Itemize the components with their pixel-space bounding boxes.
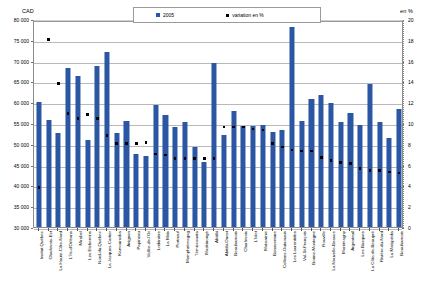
bar-slot: [161, 21, 171, 227]
bar: [338, 122, 343, 227]
left-axis-unit-label: CAD: [22, 8, 34, 14]
bar: [75, 76, 80, 227]
y2-axis-tick-label: 4: [408, 183, 411, 189]
bar-slot: [238, 21, 248, 227]
legend-label-variation: variation en %: [232, 12, 264, 18]
bar-slot: [141, 21, 151, 227]
x-axis-category-label: La Mitis: [166, 231, 170, 246]
variation-marker: [349, 162, 352, 165]
y2-axis-tick-label: 2: [408, 204, 411, 210]
y2-axis-tick-label: 16: [408, 59, 414, 65]
variation-marker: [77, 117, 80, 120]
bar: [212, 63, 217, 227]
variation-marker: [281, 146, 284, 149]
x-axis-category-label: Les Etchemins: [88, 231, 92, 260]
bar-slot: [355, 21, 365, 227]
variation-marker: [232, 126, 235, 129]
bar-slot: [258, 21, 268, 227]
x-axis-category-label: Beauharnois: [234, 231, 238, 256]
x-axis-category-label: Maskinongé: [205, 231, 209, 255]
y2-axis-tick-label: 8: [408, 142, 411, 148]
bar-slot: [180, 21, 190, 227]
bar: [46, 120, 51, 227]
x-axis-category-label: Mirabel: [79, 231, 83, 245]
plot-area: [33, 20, 403, 228]
variation-marker: [388, 171, 391, 174]
variation-marker: [213, 157, 216, 160]
x-axis-category-label: Vallée-de-l'Or: [147, 231, 151, 257]
variation-marker: [378, 169, 381, 172]
x-axis-category-label: Les Laurentides: [293, 231, 297, 262]
variation-marker: [135, 142, 138, 145]
variation-marker: [320, 156, 323, 159]
variation-marker: [223, 126, 226, 129]
right-axis-unit-label: en %: [400, 8, 413, 14]
variation-marker: [67, 112, 70, 115]
x-axis-category-label: La Nouvelle-Beauce: [332, 231, 336, 271]
bar: [289, 27, 294, 227]
x-axis-category-label: Kamouraska: [118, 231, 122, 256]
variation-marker: [174, 157, 177, 160]
bar-slot: [151, 21, 161, 227]
y-axis-tick-label: 55 000: [14, 121, 29, 127]
variation-marker: [145, 141, 148, 144]
variation-marker: [184, 157, 187, 160]
bar-slot: [102, 21, 112, 227]
x-axis-category-label: Montmagny: [342, 231, 346, 254]
variation-marker: [330, 159, 333, 162]
legend-item-variation: variation en %: [226, 12, 264, 18]
bar-slot: [170, 21, 180, 227]
y-axis-tick-label: 35 000: [14, 204, 29, 210]
variation-marker: [47, 38, 50, 41]
x-axis-category-label: Abitibi-Ouest: [225, 231, 229, 256]
bar: [367, 84, 372, 227]
bar-slot: [365, 21, 375, 227]
bar: [114, 133, 119, 227]
y-axis-tick-label: 50 000: [14, 142, 29, 148]
x-axis-category-label: Charlevoix-Est: [49, 231, 53, 260]
variation-marker: [271, 142, 274, 145]
x-axis-category-label: Papineau: [137, 231, 141, 250]
variation-marker: [310, 150, 313, 153]
bar-slot: [34, 21, 44, 227]
bar: [231, 111, 236, 227]
y-axis-tick-label: 70 000: [14, 59, 29, 65]
bar: [270, 132, 275, 227]
legend-diamond-icon: [226, 14, 229, 17]
bar: [251, 126, 256, 227]
bar-slot: [268, 21, 278, 227]
bar-slot: [307, 21, 317, 227]
y2-axis-tick-label: 0: [408, 225, 411, 231]
bar-chart: CAD en % 80 00075 00070 00065 00060 0005…: [0, 0, 434, 292]
bar-slot: [297, 21, 307, 227]
bar: [260, 125, 265, 227]
x-axis-category-label: Argenteuil: [351, 231, 355, 251]
y-axis-tick-label: 30 000: [14, 225, 29, 231]
bar-slot: [346, 21, 356, 227]
bar-slot: [209, 21, 219, 227]
x-axis-category-label: Beauharnois: [400, 231, 404, 256]
x-axis-category-label: La Côte-de-Beaupré: [371, 231, 375, 271]
bars-and-markers: [34, 21, 402, 227]
y2-axis-tick-label: 12: [408, 100, 414, 106]
bar-slot: [200, 21, 210, 227]
bar: [397, 109, 402, 227]
bar: [358, 125, 363, 227]
x-axis-category-label: Avignon: [127, 231, 131, 247]
bar: [377, 122, 382, 227]
variation-marker: [300, 150, 303, 153]
variation-marker: [291, 149, 294, 152]
variation-marker: [154, 153, 157, 156]
bar: [163, 115, 168, 227]
x-axis-category-label: Témiscouata: [195, 231, 199, 256]
bar-slot: [44, 21, 54, 227]
variation-marker: [57, 82, 60, 85]
x-axis-category-label: Charlevoix: [244, 231, 248, 252]
bar: [221, 135, 226, 227]
variation-marker: [86, 113, 89, 116]
bar-slot: [63, 21, 73, 227]
x-axis-category-label: Bonne-Montagne: [312, 231, 316, 265]
x-axis-category-label: Val-St-François: [303, 231, 307, 261]
legend-item-2005: 2005: [156, 12, 174, 18]
bar-slot: [375, 21, 385, 227]
